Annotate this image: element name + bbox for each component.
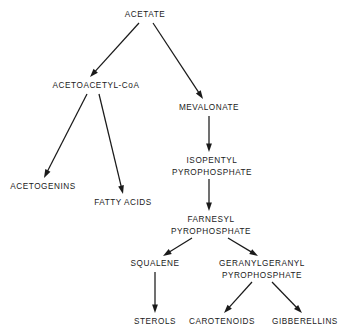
node-label-fatty_acids: FATTY ACIDS (94, 198, 152, 207)
node-mevalonate[interactable]: MEVALONATE (179, 103, 239, 112)
node-sterols[interactable]: STEROLS (134, 317, 176, 326)
node-label-geranylgeranyl_pp-line2: PYROPHOSPHATE (222, 271, 302, 280)
edge-squalene-to-sterols (152, 272, 158, 313)
node-label-isopentyl_pp-line1: ISOPENTYL (187, 156, 238, 165)
edge-acetate-to-acetoacetyl (90, 23, 139, 77)
edge-acetoacetyl-to-acetogenins (44, 94, 87, 178)
node-label-farnesyl_pp-line1: FARNESYL (187, 215, 234, 224)
nodes-layer: ACETATEACETOACETYL-CoAMEVALONATEACETOGEN… (10, 10, 338, 326)
node-squalene[interactable]: SQUALENE (131, 259, 180, 268)
node-isopentyl_pp[interactable]: ISOPENTYLPYROPHOSPHATE (172, 156, 252, 177)
node-geranylgeranyl_pp[interactable]: GERANYLGERANYLPYROPHOSPHATE (219, 259, 305, 280)
edge-isopentyl-to-farnesyl (206, 179, 212, 211)
node-label-geranylgeranyl_pp-line1: GERANYLGERANYL (219, 259, 305, 268)
node-label-farnesyl_pp-line2: PYROPHOSPHATE (171, 227, 251, 236)
edge-farnesyl-to-geranylgeranyl (228, 238, 258, 256)
edge-farnesyl-to-squalene (163, 238, 192, 256)
pathway-canvas: ACETATEACETOACETYL-CoAMEVALONATEACETOGEN… (0, 0, 342, 336)
node-label-acetate: ACETATE (125, 10, 165, 19)
node-carotenoids[interactable]: CAROTENOIDS (189, 317, 255, 326)
node-acetogenins[interactable]: ACETOGENINS (10, 182, 76, 191)
node-gibberellins[interactable]: GIBBERELLINS (272, 317, 338, 326)
edge-mevalonate-to-isopentyl (206, 116, 212, 152)
node-farnesyl_pp[interactable]: FARNESYLPYROPHOSPHATE (171, 215, 251, 236)
pathway-diagram: ACETATEACETOACETYL-CoAMEVALONATEACETOGEN… (0, 0, 342, 336)
edge-geranylgeranyl-to-gibberellins (272, 282, 302, 313)
node-label-acetogenins: ACETOGENINS (10, 182, 76, 191)
node-label-gibberellins: GIBBERELLINS (272, 317, 338, 326)
node-acetate[interactable]: ACETATE (125, 10, 165, 19)
edge-acetoacetyl-to-fatty-acids (99, 94, 124, 194)
node-label-sterols: STEROLS (134, 317, 176, 326)
node-label-carotenoids: CAROTENOIDS (189, 317, 255, 326)
edge-acetate-to-mevalonate (153, 23, 203, 99)
node-fatty_acids[interactable]: FATTY ACIDS (94, 198, 152, 207)
edge-geranylgeranyl-to-carotenoids (224, 282, 252, 313)
node-label-squalene: SQUALENE (131, 259, 180, 268)
node-label-mevalonate: MEVALONATE (179, 103, 239, 112)
node-label-isopentyl_pp-line2: PYROPHOSPHATE (172, 168, 252, 177)
node-acetoacetyl_coa[interactable]: ACETOACETYL-CoA (53, 81, 140, 90)
node-label-acetoacetyl_coa: ACETOACETYL-CoA (53, 81, 140, 90)
